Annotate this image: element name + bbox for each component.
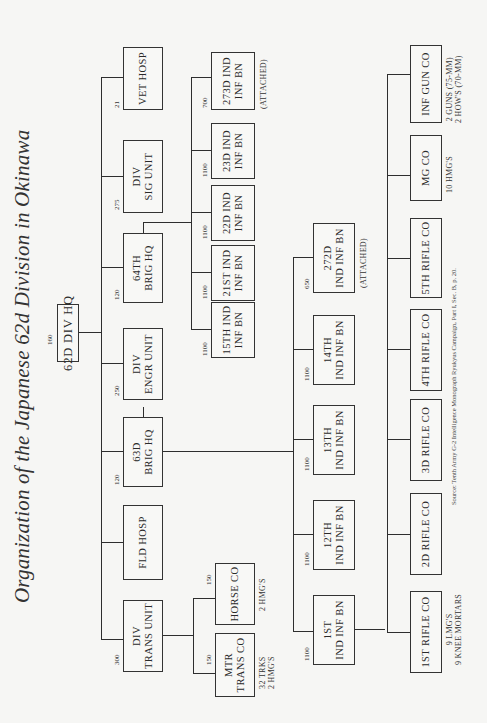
attached-note: (ATTACHED) xyxy=(359,238,368,288)
strength-label: 650 xyxy=(303,279,311,290)
hq-box: 62D DIV HQ xyxy=(57,304,79,362)
box-12th-ind-inf-bn: 12TH IND INF BN xyxy=(313,500,355,570)
box-text: BRIG HQ xyxy=(143,245,155,291)
box-text: TRANS UNIT xyxy=(143,603,155,669)
box-text: INF BN xyxy=(233,133,245,170)
strength-label: 1100 xyxy=(201,225,209,239)
connector xyxy=(293,631,313,632)
note-line: 2 HMG'S xyxy=(258,578,267,611)
box-text: 13TH xyxy=(322,427,334,453)
note-line: (ATTACHED) xyxy=(259,59,268,109)
note-line: (ATTACHED) xyxy=(359,238,368,288)
source-citation: Source: Tenth Army G-2 Intelligence Mono… xyxy=(450,268,457,505)
org-chart-page: Organization of the Japanese 62d Divisio… xyxy=(0,0,487,723)
box-1st-rifle-co: 1ST RIFLE CO xyxy=(410,591,442,673)
strength-label: 21 xyxy=(113,101,121,108)
box-1st-ind-inf-bn: 1ST IND INF BN xyxy=(313,595,355,665)
box-text: 2D RIFLE CO xyxy=(420,501,432,567)
connector xyxy=(387,74,410,75)
box-inf-gun-co: INF GUN CO xyxy=(410,45,442,123)
box-vet-hosp: VET HOSP xyxy=(123,47,163,110)
strength-label: 1100 xyxy=(201,342,209,356)
box-text: MG CO xyxy=(420,150,432,186)
box-text: INF BN xyxy=(233,63,245,100)
connector xyxy=(191,272,211,273)
equipment-note: 2 GUNS (75-MM) 2 HOW'S (70-MM) xyxy=(445,55,463,123)
box-text: 272D xyxy=(322,246,334,271)
connector xyxy=(143,407,144,417)
attached-note: (ATTACHED) xyxy=(259,59,268,109)
box-text: INF GUN CO xyxy=(420,52,432,116)
connector xyxy=(387,349,410,350)
box-text: 14TH xyxy=(322,337,334,363)
note-line: 9 LMG'S xyxy=(445,594,454,665)
connector xyxy=(143,222,191,223)
strength-label: 120 xyxy=(113,475,121,486)
box-mg-co: MG CO xyxy=(410,135,442,201)
box-3d-rifle-co: 3D RIFLE CO xyxy=(410,399,442,481)
connector xyxy=(101,451,123,452)
box-4th-rifle-co: 4TH RIFLE CO xyxy=(410,309,442,391)
connector xyxy=(101,363,123,364)
box-15th-ind-inf-bn: 15TH IND INF BN xyxy=(211,302,255,358)
strength-label: 150 xyxy=(205,575,213,586)
box-div-trans-unit: DIV TRANS UNIT xyxy=(123,600,163,672)
box-5th-rifle-co: 5TH RIFLE CO xyxy=(410,218,442,298)
box-text: 22D IND xyxy=(221,192,233,234)
connector xyxy=(293,534,313,535)
strength-label: 275 xyxy=(113,200,121,211)
box-text: 5TH RIFLE CO xyxy=(420,221,432,294)
box-text: 64TH xyxy=(131,255,143,281)
connector xyxy=(193,598,215,599)
strength-label: 1100 xyxy=(303,647,311,661)
connector xyxy=(101,77,102,640)
connector xyxy=(387,534,410,535)
connector xyxy=(355,629,385,630)
connector xyxy=(191,77,192,330)
box-273d-ind-inf-bn: 273D IND INF BN xyxy=(211,52,255,110)
connector xyxy=(193,598,194,674)
connector xyxy=(191,329,211,330)
box-272d-ind-inf-bn: 272D IND INF BN xyxy=(313,223,355,293)
box-text: HORSE CO xyxy=(229,567,241,622)
connector xyxy=(79,332,102,333)
box-fld-hosp: FLD HOSP xyxy=(123,505,163,580)
hq-strength: 160 xyxy=(46,335,54,346)
box-text: INF BN xyxy=(233,255,245,292)
box-text: 3D RIFLE CO xyxy=(420,407,432,473)
connector xyxy=(101,267,123,268)
box-text: 63D xyxy=(131,442,143,461)
note-line: 2 HOW'S (70-MM) xyxy=(454,55,463,123)
box-div-engr-unit: DIV ENGR UNIT xyxy=(123,328,163,400)
strength-label: 1100 xyxy=(303,457,311,471)
connector xyxy=(191,77,211,78)
strength-label: 120 xyxy=(113,290,121,301)
box-text: 21ST IND xyxy=(221,249,233,296)
note-line: 2 GUNS (75-MM) xyxy=(445,55,454,123)
connector xyxy=(143,223,144,233)
connector xyxy=(163,451,293,452)
connector xyxy=(387,75,388,633)
box-text: 15TH IND xyxy=(221,306,233,355)
hq-label: 62D DIV HQ xyxy=(62,295,74,371)
equipment-note: 10 HMG'S xyxy=(445,156,454,193)
box-horse-co: HORSE CO xyxy=(215,563,255,625)
box-21st-ind-inf-bn: 21ST IND INF BN xyxy=(211,245,255,301)
strength-label: 1100 xyxy=(303,552,311,566)
connector xyxy=(387,632,410,633)
box-mtr-trans-co: MTR TRANS CO xyxy=(215,633,255,697)
box-23d-ind-inf-bn: 23D IND INF BN xyxy=(211,123,255,179)
box-22d-ind-inf-bn: 22D IND INF BN xyxy=(211,185,255,241)
note-line: 2 HMG'S xyxy=(267,656,276,689)
note-line: 32 TRKS xyxy=(258,656,267,689)
box-text: 1ST RIFLE CO xyxy=(420,596,432,667)
connector xyxy=(387,175,410,176)
box-text: 273D IND xyxy=(221,57,233,105)
box-text: INF BN xyxy=(233,312,245,349)
box-2d-rifle-co: 2D RIFLE CO xyxy=(410,493,442,575)
box-14th-ind-inf-bn: 14TH IND INF BN xyxy=(313,315,355,385)
box-text: IND INF BN xyxy=(334,228,346,287)
box-64th-brig-hq: 64TH BRIG HQ xyxy=(123,233,163,303)
box-text: 1ST xyxy=(322,621,334,640)
connector xyxy=(293,439,313,440)
